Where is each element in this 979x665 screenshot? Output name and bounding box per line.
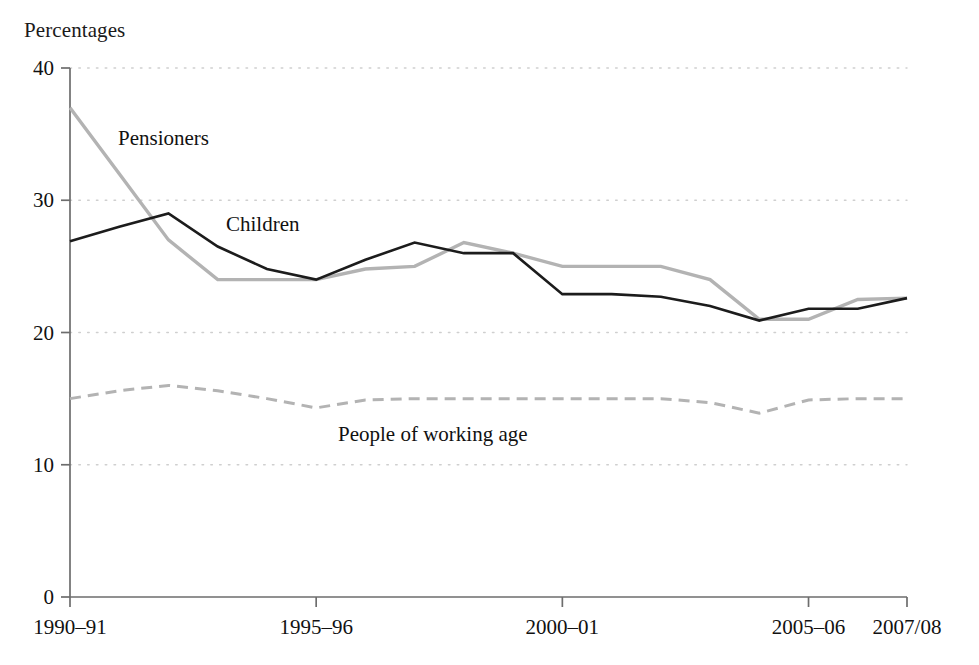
y-tick-label-40: 40 <box>33 56 54 80</box>
series-label-children: Children <box>226 212 300 236</box>
series-label-people-of-working-age: People of working age <box>338 422 528 446</box>
y-tick-label-30: 30 <box>33 188 54 212</box>
y-tick-label-10: 10 <box>33 453 54 477</box>
y-tick-label-0: 0 <box>44 585 55 609</box>
line-chart-plot: 010203040 1990–911995–962000–012005–0620… <box>0 0 979 665</box>
x-tick-label-3: 2005–06 <box>772 615 846 639</box>
series-line-people-of-working-age <box>70 385 907 413</box>
chart-container: Percentages 010203040 1990–911995–962000… <box>0 0 979 665</box>
x-tick-label-2: 2000–01 <box>526 615 600 639</box>
x-ticks-group: 1990–911995–962000–012005–062007/08 <box>33 597 941 639</box>
series-line-children <box>70 213 907 320</box>
y-ticks-group: 010203040 <box>33 56 70 609</box>
x-tick-label-1: 1995–96 <box>279 615 353 639</box>
series-label-pensioners: Pensioners <box>118 126 209 150</box>
x-tick-label-0: 1990–91 <box>33 615 107 639</box>
series-group <box>70 108 907 414</box>
y-tick-label-20: 20 <box>33 321 54 345</box>
x-tick-label-4: 2007/08 <box>873 615 942 639</box>
